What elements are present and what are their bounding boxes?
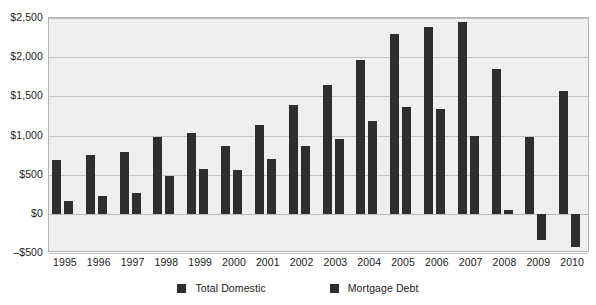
x-axis-tick-label: 1998 — [154, 256, 178, 268]
bar-group — [556, 18, 590, 251]
bar-group — [117, 18, 151, 251]
bar-group — [522, 18, 556, 251]
bar-group — [455, 18, 489, 251]
bar — [233, 170, 242, 214]
bar — [289, 105, 298, 214]
x-axis-tick-label: 2007 — [459, 256, 483, 268]
y-axis-tick-label: $2,000 — [10, 51, 43, 62]
x-axis-tick-label: 2004 — [357, 256, 381, 268]
bar — [525, 137, 534, 214]
y-axis: $2,500$2,000$1,500$1,000$500$0–$500 — [0, 0, 46, 260]
bar-group — [184, 18, 218, 251]
y-axis-tick-label: $1,000 — [10, 129, 43, 140]
x-axis-tick-label: 1999 — [188, 256, 212, 268]
x-axis-tick-label: 2005 — [391, 256, 415, 268]
bars-layer — [49, 18, 588, 251]
bar — [64, 201, 73, 214]
bar — [504, 210, 513, 214]
square-swatch-icon — [177, 284, 186, 293]
bar — [436, 109, 445, 214]
y-axis-tick-label: $500 — [19, 168, 43, 179]
bar — [368, 121, 377, 214]
x-axis-tick-label: 2003 — [324, 256, 348, 268]
bar — [98, 196, 107, 214]
bar — [267, 159, 276, 214]
x-axis-tick-label: 2001 — [256, 256, 280, 268]
bar — [424, 27, 433, 213]
bar-group — [320, 18, 354, 251]
bar — [537, 214, 546, 240]
x-axis-tick-label: 2008 — [493, 256, 517, 268]
legend-label: Total Domestic — [195, 282, 265, 294]
x-axis-tick-label: 2002 — [290, 256, 314, 268]
bar — [221, 146, 230, 213]
bar-group — [252, 18, 286, 251]
bar — [255, 125, 264, 214]
y-axis-tick-label: $0 — [31, 207, 43, 218]
bar — [165, 176, 174, 214]
bar-group — [150, 18, 184, 251]
legend-item: Mortgage Debt — [330, 282, 419, 294]
gridline — [49, 253, 588, 254]
x-axis-tick-label: 1996 — [87, 256, 111, 268]
x-axis-tick-label: 1997 — [121, 256, 145, 268]
bar — [571, 214, 580, 247]
x-axis-tick-label: 2010 — [560, 256, 584, 268]
bar — [86, 155, 95, 214]
bar-chart: $2,500$2,000$1,500$1,000$500$0–$500 1995… — [0, 0, 596, 305]
bar — [323, 85, 332, 213]
bar — [470, 136, 479, 214]
bar — [402, 107, 411, 214]
bar — [199, 169, 208, 214]
bar — [356, 60, 365, 214]
bar — [492, 69, 501, 214]
bar — [301, 146, 310, 214]
bar-group — [421, 18, 455, 251]
legend-item: Total Domestic — [177, 282, 265, 294]
legend-label: Mortgage Debt — [348, 282, 419, 294]
bar-group — [387, 18, 421, 251]
x-axis-tick-label: 2009 — [526, 256, 550, 268]
bar — [187, 133, 196, 214]
bar — [120, 152, 129, 214]
x-axis-tick-label: 2006 — [425, 256, 449, 268]
x-axis-tick-label: 2000 — [222, 256, 246, 268]
y-axis-tick-label: $2,500 — [10, 12, 43, 23]
bar-group — [489, 18, 523, 251]
bar — [335, 139, 344, 214]
bar — [559, 91, 568, 214]
x-axis: 1995199619971998199920002001200220032004… — [48, 256, 589, 272]
bar-group — [286, 18, 320, 251]
bar — [390, 34, 399, 213]
plot-area — [48, 17, 589, 252]
chart-legend: Total DomesticMortgage Debt — [0, 279, 596, 297]
bar — [153, 137, 162, 214]
bar — [52, 160, 61, 214]
y-axis-tick-label: –$500 — [13, 247, 43, 258]
bar-group — [49, 18, 83, 251]
bar-group — [353, 18, 387, 251]
square-swatch-icon — [330, 284, 339, 293]
y-axis-tick-label: $1,500 — [10, 90, 43, 101]
bar-group — [83, 18, 117, 251]
bar — [458, 22, 467, 214]
bar — [132, 193, 141, 214]
x-axis-tick-label: 1995 — [53, 256, 77, 268]
bar-group — [218, 18, 252, 251]
